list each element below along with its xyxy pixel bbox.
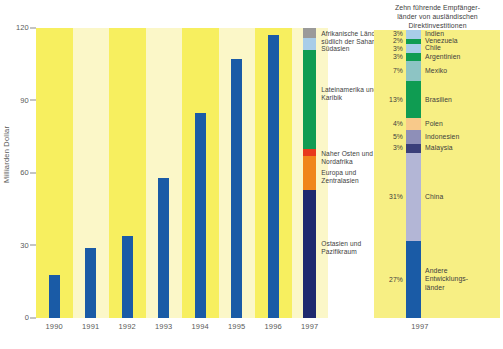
legend-segment-malaysia (406, 144, 421, 153)
legend-label: Malaysia (425, 144, 501, 152)
x-tick-1990: 1990 (36, 322, 73, 331)
x-tick-1992: 1992 (109, 322, 146, 331)
y-axis: Milliarden Dollar 0306090120 (0, 0, 36, 349)
y-tick: 90 (0, 96, 36, 105)
x-axis-labels: 19901991199219931994199519961997 (36, 322, 328, 336)
legend-segment-china (406, 153, 421, 241)
legend-label: Andere Entwicklungs- länder (425, 267, 501, 292)
legend-label: Polen (425, 120, 501, 128)
y-tick: 0 (0, 313, 36, 322)
legend-percent: 31% (370, 193, 403, 200)
legend-title: Zehn führende Empfänger- länder von ausl… (372, 3, 503, 31)
legend-percent: 2% (370, 37, 403, 44)
bar-1990 (49, 275, 60, 319)
x-tick-1991: 1991 (73, 322, 110, 331)
legend-percent: 3% (370, 45, 403, 52)
y-axis-title: Milliarden Dollar (2, 95, 11, 215)
stack-segment (303, 28, 316, 38)
x-tick-1997: 1997 (292, 322, 329, 331)
x-tick-1994: 1994 (182, 322, 219, 331)
legend-segment-mexiko (406, 61, 421, 81)
legend-percent: 7% (370, 67, 403, 74)
chart-root: Milliarden Dollar 0306090120 Afrikanisch… (0, 0, 503, 349)
legend-segment-argentinien (406, 53, 421, 62)
y-tick: 60 (0, 168, 36, 177)
stacked-bar-1997 (303, 28, 316, 318)
stack-segment (303, 190, 316, 318)
legend-percent: 3% (370, 144, 403, 151)
x-tick-1993: 1993 (146, 322, 183, 331)
stack-segment (303, 149, 316, 156)
bar-1996 (268, 35, 279, 318)
legend-percent: 27% (370, 276, 403, 283)
y-tick: 30 (0, 241, 36, 250)
bar-1994 (195, 113, 206, 318)
legend-panel: Zehn führende Empfänger- länder von ausl… (370, 0, 503, 349)
y-tick: 120 (0, 23, 36, 32)
legend-percent: 3% (370, 30, 403, 37)
legend-label: Mexiko (425, 67, 501, 75)
legend-label: Argentinien (425, 53, 501, 61)
legend-label: Chile (425, 44, 501, 52)
legend-stacked-bar (406, 30, 421, 318)
bar-1993 (158, 178, 169, 318)
bar-1992 (122, 236, 133, 318)
legend-segment-brasilien (406, 81, 421, 118)
stack-segment (303, 38, 316, 50)
legend-segment-andere (406, 241, 421, 318)
legend-percent: 13% (370, 96, 403, 103)
legend-label: China (425, 193, 501, 201)
x-tick-1996: 1996 (255, 322, 292, 331)
stack-segment (303, 50, 316, 149)
stack-segment (303, 156, 316, 190)
bar-1995 (231, 59, 242, 318)
plot-area (36, 28, 328, 318)
legend-percent: 4% (370, 120, 403, 127)
legend-percent: 3% (370, 53, 403, 60)
x-tick-1995: 1995 (219, 322, 256, 331)
legend-label: Brasilien (425, 96, 501, 104)
legend-label: Indonesien (425, 133, 501, 141)
background-stripes (36, 28, 328, 318)
legend-segment-indonesien (406, 130, 421, 144)
legend-percent: 5% (370, 133, 403, 140)
bar-1991 (85, 248, 96, 318)
legend-segment-polen (406, 118, 421, 129)
legend-segment-chile (406, 44, 421, 53)
legend-segment-indien (406, 30, 421, 39)
